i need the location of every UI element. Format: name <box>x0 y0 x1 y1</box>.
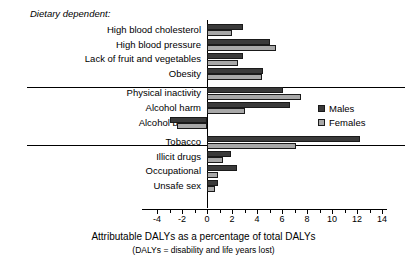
bar-females <box>207 157 223 163</box>
x-tick-label: -2 <box>172 214 192 224</box>
category-label: Physical inactivity <box>33 88 205 98</box>
x-tick-minor <box>220 209 221 213</box>
x-tick-minor <box>370 209 371 213</box>
x-tick-label: 10 <box>322 214 342 224</box>
x-tick-label: -4 <box>147 214 167 224</box>
legend-item-females: Females <box>318 115 365 129</box>
bar-males <box>207 102 290 108</box>
x-axis-sublabel: (DALYs = disability and life years lost) <box>0 245 407 255</box>
bar-males <box>207 136 360 142</box>
x-tick-label: 6 <box>272 214 292 224</box>
legend-label-females: Females <box>329 117 365 128</box>
chart-container: Dietary dependent: High blood cholestero… <box>0 0 407 269</box>
legend-swatch-males-icon <box>318 105 325 112</box>
bar-females <box>207 143 296 149</box>
x-tick-label: 12 <box>347 214 367 224</box>
bar-males <box>207 87 283 93</box>
bar-females <box>207 30 232 36</box>
x-tick-minor <box>195 209 196 213</box>
bar-males <box>207 24 243 30</box>
category-label: Illicit drugs <box>33 152 205 162</box>
x-axis-label: Attributable DALYs as a percentage of to… <box>0 231 407 242</box>
bar-males <box>207 151 231 157</box>
category-label: Unsafe sex <box>33 181 205 191</box>
bar-females <box>207 74 262 80</box>
legend-swatch-females-icon <box>318 119 325 126</box>
bar-males <box>207 165 237 171</box>
category-label: High blood pressure <box>33 40 205 50</box>
bar-females <box>207 108 245 114</box>
chart-legend: Males Females <box>318 101 365 129</box>
legend-item-males: Males <box>318 101 365 115</box>
x-tick-label: 0 <box>197 214 217 224</box>
x-tick-minor <box>245 209 246 213</box>
x-tick-minor <box>170 209 171 213</box>
category-label: Obesity <box>33 69 205 79</box>
x-tick-label: 14 <box>372 214 392 224</box>
x-tick-label: 2 <box>222 214 242 224</box>
x-axis-line <box>142 209 387 210</box>
category-label: High blood cholesterol <box>33 25 205 35</box>
category-label-list: High blood cholesterolHigh blood pressur… <box>0 0 205 215</box>
bar-females <box>207 94 301 100</box>
bar-males <box>170 117 208 123</box>
bar-females <box>207 186 215 192</box>
category-label: Alcohol harm <box>33 103 205 113</box>
bar-females <box>207 172 218 178</box>
bar-females <box>207 60 238 66</box>
x-tick-label: 8 <box>297 214 317 224</box>
bar-males <box>207 39 270 45</box>
x-tick-minor <box>320 209 321 213</box>
x-tick-minor <box>295 209 296 213</box>
bar-males <box>207 53 243 59</box>
bar-males <box>207 68 263 74</box>
x-tick-label: 4 <box>247 214 267 224</box>
bar-females <box>207 45 276 51</box>
bar-females <box>177 123 207 129</box>
category-label: Occupational <box>33 166 205 176</box>
x-tick-minor <box>270 209 271 213</box>
bar-males <box>207 180 218 186</box>
legend-label-males: Males <box>329 103 354 114</box>
category-label: Lack of fruit and vegetables <box>33 54 205 64</box>
x-tick-minor <box>345 209 346 213</box>
